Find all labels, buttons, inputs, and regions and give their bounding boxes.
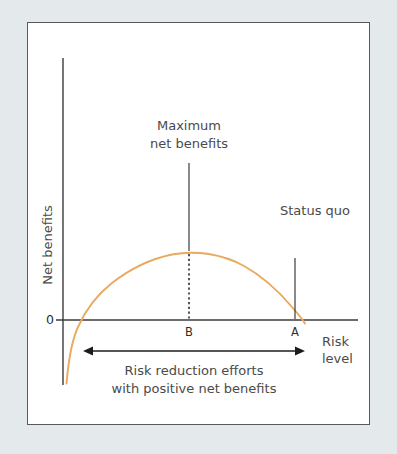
tick-label-a: A	[291, 325, 299, 339]
arrow-head-right	[295, 347, 305, 356]
range-caption-line1: Risk reduction efforts	[125, 363, 264, 378]
x-axis-title-line2: level	[322, 351, 353, 366]
chart-canvas: Net benefits 0 B A Risk level Maximum ne…	[0, 0, 397, 454]
status-quo-annotation: Status quo	[280, 203, 350, 218]
figure-root: Net benefits 0 B A Risk level Maximum ne…	[0, 0, 397, 454]
risk-reduction-range-arrow	[83, 347, 305, 356]
arrow-head-left	[83, 347, 93, 356]
zero-tick-label: 0	[46, 312, 54, 327]
maximum-annotation-line1: Maximum	[157, 118, 221, 133]
range-caption-line2: with positive net benefits	[112, 381, 277, 396]
tick-label-b: B	[185, 325, 193, 339]
x-axis-title-line1: Risk	[322, 334, 349, 349]
y-axis-title: Net benefits	[40, 205, 55, 285]
maximum-annotation-line2: net benefits	[150, 136, 228, 151]
